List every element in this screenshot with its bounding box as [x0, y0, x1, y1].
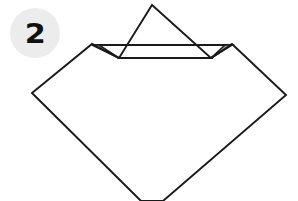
step-badge-number: 2: [24, 20, 45, 47]
step-badge: 2: [10, 8, 60, 58]
diagram-canvas: 2: [0, 0, 298, 201]
